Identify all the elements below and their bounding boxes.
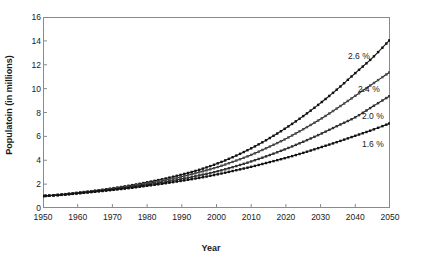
series-marker [313, 107, 315, 109]
series-marker [287, 147, 289, 149]
y-tick-label: 10 [21, 84, 41, 94]
series-marker [257, 158, 259, 160]
series-marker [347, 137, 349, 139]
series-marker [187, 179, 189, 181]
series-marker [347, 79, 349, 81]
series-marker [239, 168, 241, 170]
series-marker [261, 156, 263, 158]
series-marker [328, 143, 330, 145]
series-marker [198, 174, 200, 176]
series-marker [220, 165, 222, 167]
series-marker [235, 159, 237, 161]
series-marker [246, 155, 248, 157]
series-marker [261, 163, 263, 165]
series-marker [79, 192, 81, 194]
series-marker [350, 75, 352, 77]
series-marker [280, 130, 282, 132]
series-marker [183, 179, 185, 181]
series-marker [388, 95, 390, 97]
series-marker [101, 190, 103, 192]
series-marker [239, 158, 241, 160]
series-marker [213, 167, 215, 169]
series-marker [243, 163, 245, 165]
series-line [43, 123, 390, 196]
series-marker [362, 89, 364, 91]
series-marker [202, 167, 204, 169]
series-marker [365, 62, 367, 64]
series-marker [254, 159, 256, 161]
series-marker [205, 166, 207, 168]
series-marker [324, 98, 326, 100]
series-marker [343, 122, 345, 124]
series-marker [265, 147, 267, 149]
series-marker [228, 158, 230, 160]
series-marker [362, 132, 364, 134]
x-axis-title-text: Year [201, 243, 220, 253]
series-marker [385, 73, 387, 75]
series-marker [313, 122, 315, 124]
series-marker [283, 157, 285, 159]
series-marker [265, 162, 267, 164]
series-marker [172, 181, 174, 183]
series-marker [324, 130, 326, 132]
series-marker [86, 191, 88, 193]
series-marker [332, 92, 334, 94]
series-marker [295, 144, 297, 146]
series-marker [60, 194, 62, 196]
y-tick-label: 8 [21, 108, 41, 118]
series-marker [246, 149, 248, 151]
series-marker [287, 156, 289, 158]
series-marker [246, 166, 248, 168]
series-marker [161, 183, 163, 185]
series-marker [350, 136, 352, 138]
series-marker [220, 161, 222, 163]
series-marker [369, 84, 371, 86]
series-marker [72, 193, 74, 195]
series-marker [302, 152, 304, 154]
series-marker [231, 156, 233, 158]
series-marker [254, 145, 256, 147]
series-marker [269, 137, 271, 139]
y-tick-label: 16 [21, 12, 41, 22]
series-marker [224, 168, 226, 170]
series-marker [365, 131, 367, 133]
series-marker [254, 165, 256, 167]
series-marker [324, 115, 326, 117]
series-marker [220, 172, 222, 174]
series-marker [336, 141, 338, 143]
series-marker [265, 139, 267, 141]
series-marker [261, 141, 263, 143]
series-marker [68, 193, 70, 195]
series-marker [228, 162, 230, 164]
series-marker [373, 128, 375, 130]
series-marker [164, 182, 166, 184]
series-marker [269, 161, 271, 163]
series-marker [257, 150, 259, 152]
series-marker [377, 102, 379, 104]
y-tick-label: 14 [21, 36, 41, 46]
series-marker [209, 175, 211, 177]
series-marker [183, 173, 185, 175]
series-marker [381, 46, 383, 48]
series-marker [377, 79, 379, 81]
series-marker [306, 139, 308, 141]
series-marker [295, 132, 297, 134]
series-1.6-percent [43, 122, 390, 197]
series-marker [324, 145, 326, 147]
series-marker [217, 170, 219, 172]
series-marker [298, 142, 300, 144]
series-marker [187, 172, 189, 174]
series-marker [64, 193, 66, 195]
series-marker [280, 140, 282, 142]
series-marker [358, 92, 360, 94]
series-marker [202, 173, 204, 175]
y-axis-title: Populatoin (in millions) [0, 0, 18, 210]
series-marker [83, 192, 85, 194]
series-marker [373, 55, 375, 57]
series-marker [75, 192, 77, 194]
series-marker [90, 191, 92, 193]
series-marker [272, 135, 274, 137]
series-marker [377, 127, 379, 129]
series-2.6-percent [43, 39, 390, 197]
series-marker [358, 69, 360, 71]
